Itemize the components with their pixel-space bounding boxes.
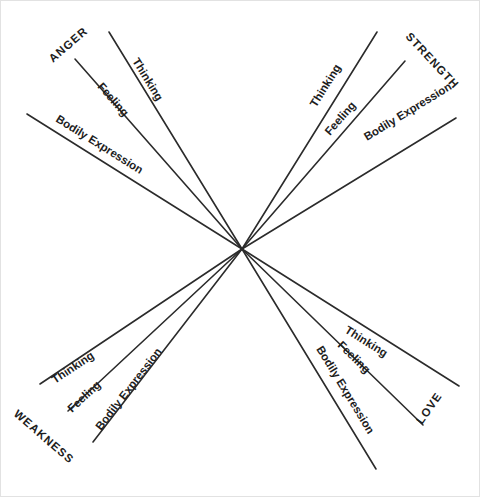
rays-group [27,32,459,469]
ray-label-love-bodily-expression: Bodily Expression [314,344,377,436]
pole-label-anger: ANGER [46,25,89,65]
ray-line-strength-thinking [242,32,377,249]
pole-label-strength: STRENGTH [404,30,462,91]
pole-label-love: LOVE [414,390,444,426]
pole-label-weakness: WEAKNESS [12,407,77,465]
ray-label-strength-bodily-expression: Bodily Expression [362,80,454,143]
ray-line-anger-bodily-expression [27,114,242,249]
ray-line-love-thinking [242,249,459,386]
ray-label-anger-bodily-expression: Bodily Expression [54,113,145,176]
ray-label-weakness-thinking: Thinking [49,349,96,386]
radial-diagram: ThinkingFeelingBodily ExpressionThinking… [1,1,480,497]
ray-label-weakness-feeling: Feeling [65,378,103,414]
ray-labels-group: ThinkingFeelingBodily ExpressionThinking… [49,56,453,436]
ray-label-strength-thinking: Thinking [308,62,344,109]
diagram-canvas: ThinkingFeelingBodily ExpressionThinking… [0,0,480,497]
ray-line-anger-thinking [109,32,242,249]
ray-label-anger-feeling: Feeling [95,80,131,118]
ray-label-weakness-bodily-expression: Bodily Expression [93,345,164,432]
ray-line-strength-bodily-expression [242,118,456,249]
ray-label-strength-feeling: Feeling [322,99,357,137]
